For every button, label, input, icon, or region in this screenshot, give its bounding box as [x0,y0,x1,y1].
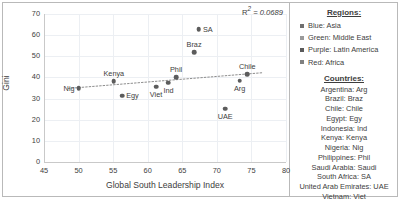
data-point [237,79,242,84]
r-squared-annotation: R2 = 0.0689 [242,5,283,17]
legend-country-item: United Arab Emirates: UAE [294,182,394,192]
legend-country-item: Nigeria: Nig [294,143,394,153]
data-point [112,79,117,84]
data-point-label: Kenya [103,70,124,77]
data-point-label: Nig [64,85,75,92]
legend-region-label: Blue: Asia [308,21,341,30]
legend-region-item: Purple: Latin America [294,45,394,54]
legend-country-item: Kenya: Kenya [294,133,394,143]
legend-country-item: Egypt: Egy [294,114,394,124]
data-point-label: SA [203,26,213,33]
data-point [223,106,228,111]
data-point [166,80,171,85]
legend-region-label: Red: Africa [308,58,344,67]
legend-country-item: Argentina: Arg [294,85,394,95]
r-squared-value: = 0.0689 [253,8,283,17]
data-point-label: Phil [170,66,182,73]
legend-region-item: Red: Africa [294,58,394,67]
legend-swatch-icon [300,48,304,52]
data-point-label: Arg [234,85,245,92]
legend-region-item: Green: Middle East [294,33,394,42]
legend-swatch-icon [300,60,304,64]
legend-country-item: Chile: Chile [294,104,394,114]
legend-swatch-icon [300,36,304,40]
r-squared-exponent: 2 [248,5,252,12]
legend-regions-list: Blue: AsiaGreen: Middle EastPurple: Lati… [294,21,394,67]
legend-country-item: Indonesia: Ind [294,124,394,134]
legend-country-item: Philippines: Phil [294,153,394,163]
legend-country-item: Saudi Arabia: Saudi [294,163,394,173]
data-point-label: Viet [150,91,162,98]
x-axis-title: Global South Leadership Index [44,180,286,190]
data-point-label: Braz [187,41,202,48]
data-point [197,27,202,32]
trendline [0,0,289,195]
data-point-label: UAE [218,113,233,120]
legend-region-label: Green: Middle East [308,33,371,42]
legend-country-item: South Africa: SA [294,172,394,182]
plot-area: 4550556065707580 010203040506070 NigKeny… [0,0,289,195]
data-point-label: Egy [126,92,139,99]
y-axis-title: Gini [1,61,11,105]
data-point [76,86,81,91]
data-point-label: Ind [163,87,173,94]
legend-countries-heading: Countries: [294,74,394,83]
data-point [120,93,125,98]
legend-region-label: Purple: Latin America [308,45,378,54]
scatter-chart-card: 4550556065707580 010203040506070 NigKeny… [0,0,403,213]
legend-regions-heading: Regions: [294,8,394,17]
data-point-label: Chile [239,63,256,70]
data-point [154,84,159,89]
data-point [192,50,197,55]
legend-swatch-icon [300,24,304,28]
legend-region-item: Blue: Asia [294,21,394,30]
legend-country-item: Brazil: Braz [294,94,394,104]
legend-country-item: Vietnam: Viet [294,192,394,202]
legend-countries-list: Argentina: ArgBrazil: BrazChile: ChileEg… [294,85,394,202]
data-point [174,75,179,80]
legend-panel: Regions: Blue: AsiaGreen: Middle EastPur… [290,2,398,197]
data-point [245,72,250,77]
